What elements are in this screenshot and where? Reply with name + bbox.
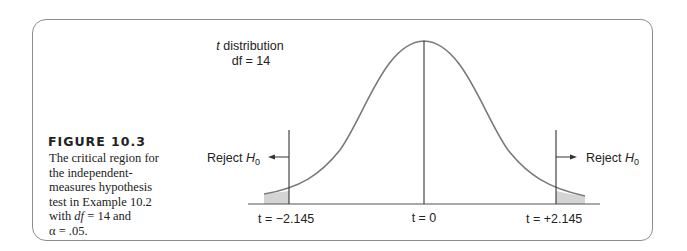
right-arrow-icon xyxy=(570,155,577,160)
reject-label-left: Reject H0 xyxy=(207,151,260,167)
chart-title: t distribution xyxy=(216,39,283,53)
tick-label-left: t = −2.145 xyxy=(258,212,314,226)
t-distribution-chart: t distribution df = 14 Reject H0 Reject … xyxy=(0,0,687,251)
tick-label-right: t = +2.145 xyxy=(526,212,582,226)
reject-label-right: Reject H0 xyxy=(586,151,639,167)
left-arrow-icon xyxy=(268,155,275,160)
tick-label-center: t = 0 xyxy=(412,211,437,225)
chart-subtitle: df = 14 xyxy=(232,54,271,68)
